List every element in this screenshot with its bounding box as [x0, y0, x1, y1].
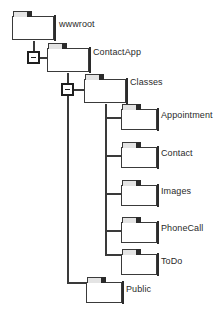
folder-icon-classes[interactable] [84, 74, 128, 104]
folder-tab-accent-icon [136, 104, 141, 110]
folder-tree-diagram: wwwroot ContactApp Classes [0, 0, 221, 327]
folder-tab-accent-icon [27, 11, 32, 17]
connector-spine-contactapp-children [67, 96, 69, 283]
folder-icon-images[interactable] [121, 180, 159, 207]
folder-body [121, 147, 157, 168]
folder-tab-accent-icon [136, 217, 141, 223]
folder-edge [157, 146, 159, 169]
folder-body [86, 282, 122, 303]
folder-tab-accent-icon [99, 74, 104, 80]
minus-box-icon [65, 89, 70, 90]
folder-body [121, 222, 157, 243]
folder-edge [157, 184, 159, 207]
connector-contactapp-to-expander [67, 73, 69, 83]
node-label-phonecall: PhoneCall [161, 223, 203, 234]
folder-edge [126, 78, 128, 104]
node-label-contactapp: ContactApp [93, 47, 141, 58]
node-label-appointment: Appointment [161, 110, 213, 121]
folder-body [121, 185, 157, 206]
folder-edge [157, 253, 159, 276]
folder-tab-accent-icon [136, 249, 141, 255]
node-label-public: Public [126, 284, 151, 295]
folder-body [84, 79, 126, 103]
node-label-contact: Contact [161, 148, 193, 159]
folder-icon-todo[interactable] [121, 249, 159, 276]
folder-edge [89, 47, 91, 73]
node-label-images: Images [161, 186, 191, 197]
folder-body [121, 109, 157, 130]
folder-edge [54, 15, 56, 41]
folder-icon-contact[interactable] [121, 142, 159, 169]
folder-icon-appointment[interactable] [121, 104, 159, 131]
folder-body [12, 16, 54, 40]
folder-icon-wwwroot[interactable] [12, 11, 56, 41]
node-label-todo: ToDo [161, 256, 182, 267]
node-label-wwwroot: wwwroot [59, 19, 95, 30]
folder-edge [157, 221, 159, 244]
folder-icon-contactapp[interactable] [47, 43, 91, 73]
connector-spine-classes-children [105, 104, 107, 255]
folder-tab-accent-icon [136, 142, 141, 148]
folder-tab-accent-icon [62, 43, 67, 49]
folder-edge [122, 281, 124, 304]
folder-edge [157, 108, 159, 131]
folder-icon-phonecall[interactable] [121, 217, 159, 244]
connector-wwwroot-to-expander [33, 41, 35, 51]
expander-contactapp[interactable] [61, 83, 74, 96]
folder-body [47, 48, 89, 72]
folder-body [121, 254, 157, 275]
folder-tab-accent-icon [101, 277, 106, 283]
folder-icon-public[interactable] [86, 277, 124, 304]
node-label-classes: Classes [130, 77, 163, 88]
expander-wwwroot[interactable] [27, 51, 40, 64]
folder-tab-accent-icon [136, 180, 141, 186]
minus-box-icon [31, 57, 36, 58]
